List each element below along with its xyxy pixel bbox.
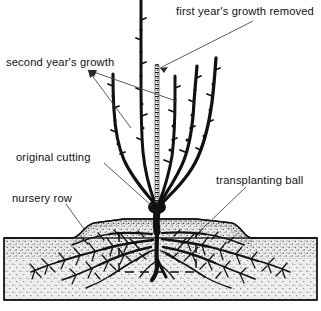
shoots — [108, 0, 220, 232]
leader-nursery-row — [66, 204, 84, 229]
arrowhead-first-year — [160, 67, 168, 73]
label-transplanting-ball: transplanting ball — [216, 174, 303, 186]
soil-block — [4, 219, 317, 300]
label-nursery-row: nursery row — [12, 192, 72, 204]
label-first-year-growth-removed: first year's growth removed — [176, 5, 314, 17]
leader-second-year-b — [88, 70, 131, 128]
shoot-left-inner — [141, 0, 155, 203]
transplanting-diagram: first year's growth removed second year'… — [0, 0, 321, 311]
leader-first-year — [160, 21, 253, 68]
label-original-cutting: original cutting — [16, 151, 91, 163]
label-second-year-growth: second year's growth — [6, 56, 114, 68]
leader-second-year-a — [88, 70, 176, 101]
bud-dots — [112, 29, 215, 152]
shoot-right-outer — [161, 58, 216, 204]
